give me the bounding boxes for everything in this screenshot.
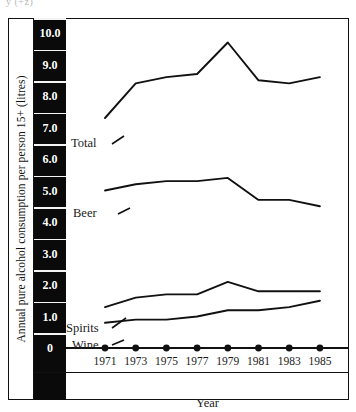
series-line-spirits [105,282,320,307]
scan-artifact-text: y (+z) [6,0,33,7]
series-label-beer: Beer [73,206,97,221]
y-tick-separator [34,333,66,335]
y-axis-title-strip: Annual pure alcohol consumption per pers… [8,18,34,400]
y-tick-label-4-0: 4.0 [34,216,66,228]
series-label-total: Total [71,136,97,151]
x-tick-label-1985: 1985 [302,355,338,367]
y-tick-separator [34,144,66,146]
y-tick-label-8-0: 8.0 [34,90,66,102]
x-axis-marker-1977 [194,345,201,352]
y-axis-title: Annual pure alcohol consumption per pers… [15,75,27,342]
series-canvas [66,18,349,400]
y-tick-separator [34,113,66,115]
series-label-wine: Wine [72,338,99,353]
y-tick-separator [34,50,66,52]
y-axis-tick-column: 10.09.08.07.06.05.04.03.02.01.00 [34,18,66,400]
series-label-leader [112,340,124,345]
series-label-spirits: Spirits [66,321,99,336]
series-label-leader [112,136,124,144]
x-axis-marker-1983 [286,345,293,352]
y-tick-separator [34,18,66,20]
y-tick-label-6-0: 6.0 [34,153,66,165]
x-axis-marker-1985 [317,345,324,352]
y-tick-label-3-0: 3.0 [34,248,66,260]
y-tick-separator [34,176,66,178]
y-tick-separator [34,207,66,209]
y-tick-label-0: 0 [34,342,66,354]
y-tick-label-9-0: 9.0 [34,59,66,71]
y-tick-separator [34,302,66,304]
x-axis-marker-1973 [132,345,139,352]
y-tick-label-7-0: 7.0 [34,122,66,134]
plot-area: Total Beer Spirits Wine 1971197319751977… [66,18,349,400]
y-tick-label-5-0: 5.0 [34,185,66,197]
y-tick-label-10-0: 10.0 [34,27,66,39]
x-axis-marker-1975 [163,345,170,352]
series-label-leader [118,208,130,214]
y-tick-label-2-0: 2.0 [34,279,66,291]
y-tick-separator [34,81,66,83]
series-line-wine [105,301,320,323]
y-tick-separator [34,239,66,241]
x-axis-marker-1971 [102,345,109,352]
x-axis-marker-1981 [255,345,262,352]
x-axis-title-rule [34,372,349,373]
chart-figure: y (+z) Annual pure alcohol consumption p… [0,0,356,412]
series-line-total [105,43,320,119]
y-tick-separator [34,270,66,272]
series-line-beer [105,178,320,206]
series-label-leader [112,318,126,328]
x-axis-marker-1979 [224,345,231,352]
y-tick-label-1-0: 1.0 [34,311,66,323]
x-axis-title: Year [66,396,349,411]
